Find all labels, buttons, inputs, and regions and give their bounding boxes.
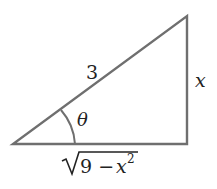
adjacent-label: 9 − x 2 <box>62 152 138 177</box>
triangle-diagram: 3 x θ 9 − x 2 <box>0 0 217 189</box>
radicand-variable: x <box>116 155 127 177</box>
opposite-label: x <box>195 69 206 91</box>
radicand-exponent: 2 <box>127 152 135 166</box>
hypotenuse-label: 3 <box>86 61 98 83</box>
right-triangle <box>13 16 187 144</box>
angle-label: θ <box>77 109 88 130</box>
angle-arc <box>61 110 75 144</box>
radicand-constant: 9 − <box>80 155 114 177</box>
